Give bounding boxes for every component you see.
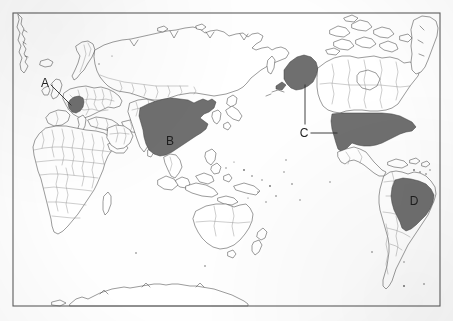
world-map-svg: A B C D <box>0 0 453 321</box>
map-figure: A B C D <box>0 0 453 321</box>
map-label-d: D <box>410 194 419 208</box>
map-label-c: C <box>300 126 309 140</box>
map-label-a: A <box>41 76 49 90</box>
map-label-b: B <box>166 134 174 148</box>
